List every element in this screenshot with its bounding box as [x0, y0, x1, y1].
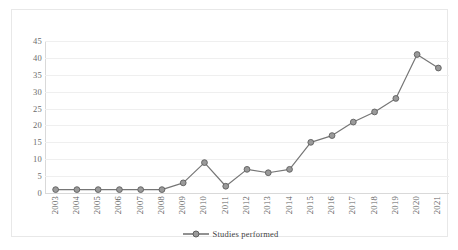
- x-tick-label: 2015: [306, 196, 315, 214]
- x-tick-label: 2019: [391, 196, 400, 214]
- data-point-marker: [414, 52, 420, 58]
- data-point-marker: [138, 187, 144, 193]
- y-tick-label: 0: [38, 189, 42, 198]
- data-point-marker: [180, 180, 186, 186]
- x-tick-label: 2020: [412, 196, 421, 214]
- chart-frame: 051015202530354045 200320042005200620072…: [11, 9, 448, 237]
- data-point-marker: [244, 166, 250, 172]
- x-tick-label: 2011: [221, 196, 230, 214]
- data-point-marker: [372, 109, 378, 115]
- x-tick-label: 2010: [199, 196, 208, 214]
- data-point-marker: [159, 187, 165, 193]
- y-tick-label: 45: [33, 37, 42, 46]
- x-tick-label: 2017: [348, 196, 357, 214]
- data-point-marker: [74, 187, 80, 193]
- x-tick-label: 2006: [114, 196, 123, 214]
- gridline: [45, 193, 449, 194]
- data-point-marker: [308, 139, 314, 145]
- y-tick-label: 10: [33, 155, 42, 164]
- series-studies-performed: [45, 41, 449, 193]
- y-tick-label: 30: [33, 88, 42, 97]
- y-tick-label: 5: [38, 172, 42, 181]
- data-point-marker: [265, 170, 271, 176]
- x-tick-label: 2021: [433, 196, 442, 214]
- x-tick-label: 2007: [136, 196, 145, 214]
- data-point-marker: [393, 96, 399, 102]
- data-point-marker: [117, 187, 123, 193]
- chart-legend: Studies performed: [12, 229, 449, 239]
- x-tick-label: 2008: [157, 196, 166, 214]
- x-tick-label: 2003: [51, 196, 60, 214]
- legend-marker-icon: [183, 229, 209, 239]
- data-point-marker: [95, 187, 101, 193]
- data-point-marker: [287, 166, 293, 172]
- x-tick-label: 2009: [178, 196, 187, 214]
- y-tick-label: 35: [33, 71, 42, 80]
- x-tick-label: 2018: [370, 196, 379, 214]
- x-tick-label: 2014: [285, 196, 294, 214]
- x-tick-label: 2005: [93, 196, 102, 214]
- y-tick-label: 15: [33, 138, 42, 147]
- x-axis-tick-labels: 2003200420052006200720082009201020112012…: [45, 196, 449, 230]
- legend-label-studies-performed: Studies performed: [213, 229, 279, 239]
- x-tick-label: 2004: [72, 196, 81, 214]
- x-tick-label: 2012: [242, 196, 251, 214]
- data-point-marker: [223, 183, 229, 189]
- y-tick-label: 25: [33, 105, 42, 114]
- x-tick-label: 2016: [327, 196, 336, 214]
- x-tick-label: 2013: [263, 196, 272, 214]
- data-point-marker: [350, 119, 356, 125]
- data-point-marker: [202, 160, 208, 166]
- plot-area: [45, 41, 449, 193]
- data-point-marker: [435, 65, 441, 71]
- y-tick-label: 40: [33, 54, 42, 63]
- y-tick-label: 20: [33, 121, 42, 130]
- y-axis-tick-labels: 051015202530354045: [23, 10, 42, 250]
- data-point-marker: [53, 187, 59, 193]
- data-point-marker: [329, 133, 335, 139]
